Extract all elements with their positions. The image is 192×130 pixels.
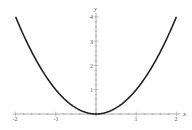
- y-tick-label: 2: [90, 63, 93, 69]
- x-tick-label: -2: [13, 116, 18, 122]
- y-tick-label: 3: [90, 39, 93, 45]
- parabola-chart: -2 -1 1 2 1 2 3 4 x y: [0, 0, 192, 130]
- y-tick-label: 1: [90, 87, 93, 93]
- x-tick-label: -1: [54, 116, 59, 122]
- x-tick-label: 1: [135, 116, 138, 122]
- y-tick-label: 4: [90, 14, 93, 20]
- y-axis-label: y: [93, 5, 98, 13]
- x-axis-label: x: [182, 110, 187, 118]
- x-tick-label: 2: [175, 116, 178, 122]
